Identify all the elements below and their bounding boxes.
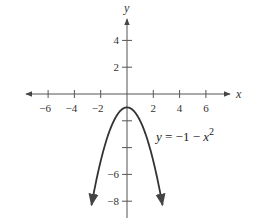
x-tick-label: −2 (92, 102, 104, 114)
y-tick-label: 4 (114, 34, 120, 46)
y-axis-label: y (123, 1, 130, 15)
x-tick-label: −6 (39, 102, 51, 114)
labels: −6−4−224642−6−8yxy = −1 − x2 (39, 1, 242, 207)
parabola-chart: −6−4−224642−6−8yxy = −1 − x2 (0, 0, 253, 219)
x-tick-label: 6 (203, 102, 209, 114)
equation-label: y = −1 − x2 (154, 126, 214, 144)
x-tick-label: 4 (177, 102, 183, 114)
axes (26, 19, 230, 218)
y-tick-label: 2 (114, 61, 120, 73)
y-tick-label: −6 (107, 168, 119, 180)
y-tick-label: −8 (107, 195, 119, 207)
x-tick-label: −4 (66, 102, 78, 114)
x-axis-label: x (235, 87, 242, 101)
x-tick-label: 2 (151, 102, 157, 114)
